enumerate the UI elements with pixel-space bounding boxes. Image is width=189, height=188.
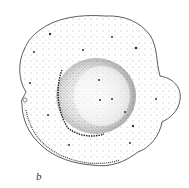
panel-label: b xyxy=(36,170,42,182)
stipple-illustration: b xyxy=(0,0,189,188)
cell-drawing xyxy=(0,0,189,188)
